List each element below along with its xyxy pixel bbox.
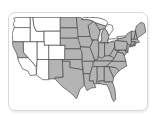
state-north-dakota (61, 17, 78, 28)
state-arizona (36, 60, 49, 80)
state-wyoming (44, 31, 60, 45)
state-indiana (99, 43, 106, 59)
state-oregon (12, 28, 30, 42)
state-colorado (49, 45, 65, 59)
us-range-map (12, 17, 146, 102)
state-florida (99, 81, 116, 102)
state-kansas (65, 49, 82, 60)
state-rhode-island (134, 42, 136, 45)
state-montana (33, 17, 60, 31)
state-south-dakota (61, 28, 79, 38)
us-map-svg (12, 17, 146, 102)
state-maine (136, 22, 146, 38)
map-thumbnail-card[interactable] (8, 12, 148, 111)
state-new-mexico (49, 60, 63, 79)
state-washington (13, 17, 30, 27)
page-background: { "page": { "background": "#ffffff" }, "… (0, 0, 157, 117)
